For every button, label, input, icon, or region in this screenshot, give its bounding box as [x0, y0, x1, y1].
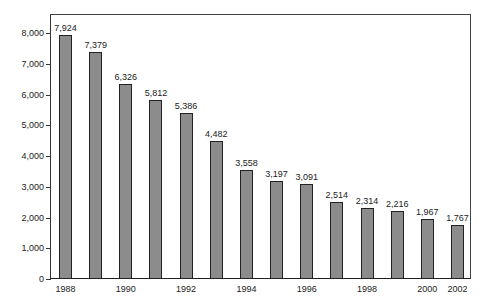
y-tick-label: 1,000 — [21, 243, 44, 253]
y-tick — [46, 279, 51, 280]
y-tick-label: 5,000 — [21, 120, 44, 130]
x-tick-label: 1992 — [166, 284, 206, 294]
x-tick-label: 1994 — [226, 284, 266, 294]
plot-frame — [50, 14, 471, 279]
bar-1998 — [361, 208, 374, 279]
bar-2002 — [451, 225, 464, 279]
bar-1995 — [270, 181, 283, 279]
value-label: 7,924 — [46, 23, 86, 33]
value-label: 3,558 — [226, 158, 266, 168]
value-label: 3,091 — [287, 172, 327, 182]
value-label: 4,482 — [196, 129, 236, 139]
bar-1992 — [180, 113, 193, 279]
x-tick-label: 2002 — [437, 284, 477, 294]
bar-1989 — [89, 52, 102, 279]
y-tick — [46, 95, 51, 96]
x-tick-label: 1988 — [46, 284, 86, 294]
y-tick — [46, 125, 51, 126]
bar-1993 — [210, 141, 223, 279]
bar-1988 — [59, 35, 72, 279]
x-tick-label: 1990 — [106, 284, 146, 294]
value-label: 5,812 — [136, 88, 176, 98]
y-tick-label: 2,000 — [21, 213, 44, 223]
bar-2000 — [421, 219, 434, 279]
x-tick-label: 1998 — [347, 284, 387, 294]
y-tick — [46, 64, 51, 65]
y-tick — [46, 218, 51, 219]
value-label: 7,379 — [76, 40, 116, 50]
bar-1997 — [330, 202, 343, 279]
y-tick-label: 0 — [39, 274, 44, 284]
value-label: 1,767 — [437, 213, 477, 223]
bar-1990 — [119, 84, 132, 279]
y-tick-label: 6,000 — [21, 90, 44, 100]
y-tick — [46, 248, 51, 249]
value-label: 6,326 — [106, 72, 146, 82]
value-label: 5,386 — [166, 101, 206, 111]
y-tick — [46, 156, 51, 157]
y-tick-label: 4,000 — [21, 151, 44, 161]
bar-1994 — [240, 170, 253, 279]
y-tick-label: 8,000 — [21, 28, 44, 38]
y-tick — [46, 187, 51, 188]
y-tick-label: 7,000 — [21, 59, 44, 69]
bar-1996 — [300, 184, 313, 279]
bar-chart: 01,0002,0003,0004,0005,0006,0007,0008,00… — [0, 0, 492, 307]
bar-1991 — [149, 100, 162, 279]
bar-1999 — [391, 211, 404, 279]
x-tick-label: 1996 — [287, 284, 327, 294]
y-tick-label: 3,000 — [21, 182, 44, 192]
